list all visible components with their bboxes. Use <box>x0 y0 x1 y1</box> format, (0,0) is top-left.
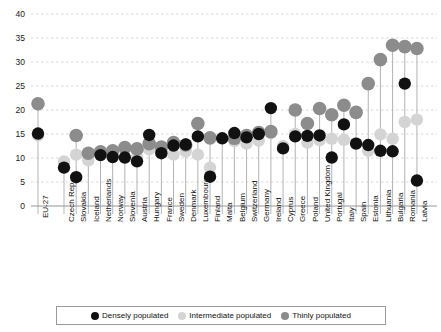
data-point-thinly <box>361 77 375 91</box>
data-point-thinly <box>31 97 45 111</box>
x-axis-label: Romania <box>408 190 417 222</box>
data-point-densely <box>362 139 374 151</box>
data-point-densely <box>131 155 143 167</box>
chart-container: 0510152025303540 EU-27Czech Rep.Slovakia… <box>0 0 441 332</box>
y-axis-tick-label: 20 <box>16 105 26 115</box>
legend-marker-icon <box>91 312 99 320</box>
data-point-intermediate <box>386 133 398 145</box>
x-axis-label: Estonia <box>371 195 380 222</box>
legend-label: Thinly populated <box>292 311 351 320</box>
x-axis-label: Ireland <box>274 198 283 222</box>
x-axis-label: Netherlands <box>104 179 113 222</box>
data-point-thinly <box>313 102 327 116</box>
data-point-densely <box>289 130 301 142</box>
data-point-densely <box>265 102 277 114</box>
x-axis-label: Hungary <box>152 192 161 222</box>
x-axis-label: Malta <box>225 202 234 222</box>
data-point-intermediate <box>192 148 204 160</box>
data-point-thinly <box>325 108 339 122</box>
data-point-thinly <box>398 40 412 54</box>
data-points <box>31 38 424 186</box>
data-point-thinly <box>349 106 363 120</box>
x-axis-label: France <box>165 197 174 222</box>
data-point-densely <box>192 130 204 142</box>
legend-marker-icon <box>281 312 289 320</box>
y-axis-tick-label: 5 <box>20 177 25 187</box>
x-axis-label: Poland <box>311 197 320 222</box>
legend-item[interactable]: Densely populated <box>91 311 168 320</box>
x-axis-label: Germany <box>262 189 271 222</box>
x-axis-label: Switzerland <box>250 181 259 222</box>
data-point-densely <box>240 131 252 143</box>
x-axis-label: Finland <box>213 196 222 222</box>
data-point-thinly <box>288 103 302 117</box>
data-point-densely <box>301 130 313 142</box>
data-point-densely <box>32 127 44 139</box>
x-axis-label: Czech Rep. <box>67 180 76 222</box>
x-axis-label: Slovenia <box>128 191 137 222</box>
x-axis-label: Austria <box>140 197 149 222</box>
data-point-intermediate <box>399 116 411 128</box>
legend-marker-icon <box>178 312 186 320</box>
legend-label: Densely populated <box>102 311 168 320</box>
data-point-densely <box>313 129 325 141</box>
data-point-densely <box>58 161 70 173</box>
x-axis-label: Italy <box>347 207 356 222</box>
x-axis-label: Denmark <box>189 190 198 222</box>
x-axis-label: Cyprus <box>286 197 295 222</box>
data-point-thinly <box>82 146 96 160</box>
data-point-intermediate <box>374 128 386 140</box>
data-point-densely <box>228 127 240 139</box>
x-axis-label: United Kingdom <box>323 165 332 222</box>
data-point-thinly <box>69 129 83 143</box>
scatter-plot: 0510152025303540 <box>0 0 441 332</box>
y-axis-tick-label: 10 <box>16 153 26 163</box>
legend-item[interactable]: Intermediate populated <box>178 311 271 320</box>
data-point-thinly <box>264 125 278 139</box>
y-axis-tick-label: 15 <box>16 129 26 139</box>
x-axis-label: Lithuania <box>384 190 393 222</box>
data-point-thinly <box>410 42 424 56</box>
x-axis-label: Spain <box>359 202 368 222</box>
chart-legend: Densely populatedIntermediate populatedT… <box>56 306 386 325</box>
y-axis-tick-label: 40 <box>16 9 26 19</box>
data-point-thinly <box>337 98 351 112</box>
data-point-densely <box>350 137 362 149</box>
data-point-densely <box>338 118 350 130</box>
data-point-intermediate <box>70 148 82 160</box>
data-point-densely <box>143 129 155 141</box>
x-axis-label: Slovakia <box>79 192 88 222</box>
y-axis-tick-label: 35 <box>16 33 26 43</box>
y-axis-tick-label: 25 <box>16 81 26 91</box>
data-point-densely <box>216 132 228 144</box>
data-point-densely <box>155 147 167 159</box>
data-point-densely <box>253 128 265 140</box>
data-point-intermediate <box>411 113 423 125</box>
data-point-densely <box>277 142 289 154</box>
data-point-densely <box>374 145 386 157</box>
x-axis-label: Latvia <box>420 201 429 222</box>
x-axis-label: Norway <box>116 195 125 222</box>
data-point-intermediate <box>326 133 338 145</box>
data-point-thinly <box>386 38 400 52</box>
x-axis-label: Belgium <box>238 193 247 222</box>
data-point-densely <box>94 149 106 161</box>
x-axis-label: EU-27 <box>41 195 50 218</box>
data-point-intermediate <box>338 134 350 146</box>
data-point-densely <box>411 174 423 186</box>
data-point-densely <box>180 138 192 150</box>
x-axis-label: Bulgaria <box>396 193 405 222</box>
y-axis-tick-labels: 0510152025303540 <box>16 9 26 211</box>
data-point-thinly <box>301 117 315 131</box>
data-point-thinly <box>130 142 144 156</box>
data-point-densely <box>386 145 398 157</box>
data-point-thinly <box>374 53 388 67</box>
x-axis-label: Portugal <box>335 192 344 222</box>
y-axis-tick-label: 0 <box>20 201 25 211</box>
data-point-thinly <box>191 117 205 131</box>
data-point-densely <box>167 139 179 151</box>
x-axis-label: Sweden <box>177 193 186 222</box>
x-axis-label: Iceland <box>92 196 101 222</box>
x-axis-label: Luxembourg <box>201 178 210 222</box>
legend-item[interactable]: Thinly populated <box>281 311 351 320</box>
